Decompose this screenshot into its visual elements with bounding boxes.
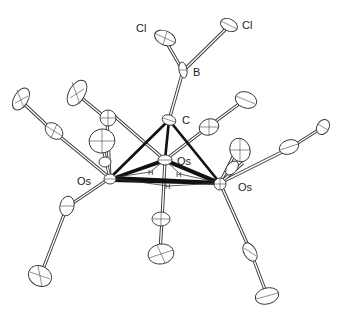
- hydride-label-3: H: [165, 182, 170, 191]
- ellipsoid-co-top-2: [146, 242, 175, 266]
- ellipsoid-co-top-2c: [152, 212, 170, 226]
- ellipsoid-co-left-3c: [99, 157, 111, 167]
- label-boron: B: [193, 66, 200, 78]
- hydride-label-1: H: [148, 168, 153, 177]
- ellipsoid-os-right: [214, 178, 226, 190]
- label-cl-left: Cl: [136, 22, 146, 34]
- ellipsoid-co-right-3: [253, 285, 280, 307]
- ellipsoid-os-top: [158, 155, 172, 165]
- label-os-left: Os: [77, 175, 92, 187]
- ellipsoid-os-left: [104, 174, 116, 184]
- label-cl-right: Cl: [242, 19, 252, 31]
- ellipsoid-co-left-4c: [58, 195, 77, 218]
- hydride-label-2: H: [176, 170, 181, 179]
- molecular-structure-diagram: H H H: [0, 0, 343, 316]
- ellipsoids: [9, 16, 332, 307]
- ellipsoid-co-right-3c: [240, 240, 260, 263]
- label-carbon: C: [182, 114, 190, 126]
- ellipsoid-co-right-2: [314, 117, 332, 137]
- ellipsoid-co-left-2c: [100, 110, 116, 126]
- ellipsoid-b: [178, 61, 189, 78]
- ellipsoid-co-left-4: [25, 261, 56, 290]
- ellipsoid-cl-left: [152, 27, 178, 49]
- ellipsoid-co-top-1: [233, 89, 259, 112]
- ellipsoid-co-left-3: [86, 126, 117, 156]
- label-os-top: Os: [177, 155, 192, 167]
- label-os-right: Os: [238, 181, 253, 193]
- ortep-drawing: H H H: [0, 0, 343, 316]
